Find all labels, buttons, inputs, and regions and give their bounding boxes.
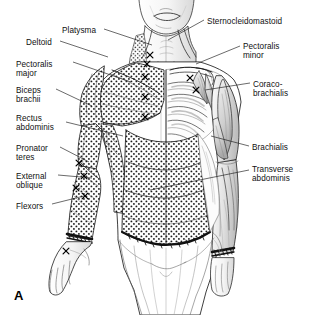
left-arm bbox=[49, 124, 102, 295]
label-rectus-abdominis: Rectus abdominis bbox=[16, 114, 54, 133]
leader-deltoid bbox=[60, 41, 108, 57]
label-sternocleidomastoid: Sternocleidomastoid bbox=[207, 17, 282, 26]
label-pectoralis-major: Pectoralis major bbox=[16, 60, 52, 79]
panel-letter: A bbox=[14, 288, 24, 303]
rectus-abdominis bbox=[122, 130, 210, 248]
label-biceps-brachii: Biceps brachii bbox=[16, 86, 41, 105]
label-deltoid: Deltoid bbox=[26, 38, 52, 47]
deltoid-left bbox=[80, 66, 104, 134]
label-pronator-teres: Pronator teres bbox=[16, 144, 48, 163]
label-platysma: Platysma bbox=[62, 26, 96, 35]
label-flexors: Flexors bbox=[16, 202, 43, 211]
label-coraco-brachialis: Coraco- brachialis bbox=[253, 80, 288, 99]
leader-pectoralis-minor bbox=[196, 46, 240, 64]
label-pectoralis-minor: Pectoralis minor bbox=[243, 42, 279, 61]
pectoralis-major-left bbox=[99, 63, 164, 126]
anatomy-figure: PlatysmaDeltoidPectoralis majorBiceps br… bbox=[0, 0, 313, 315]
label-brachialis: Brachialis bbox=[252, 143, 288, 152]
label-external-oblique: External oblique bbox=[16, 172, 46, 191]
label-transverse-abdominis: Transverse abdominis bbox=[252, 165, 293, 184]
